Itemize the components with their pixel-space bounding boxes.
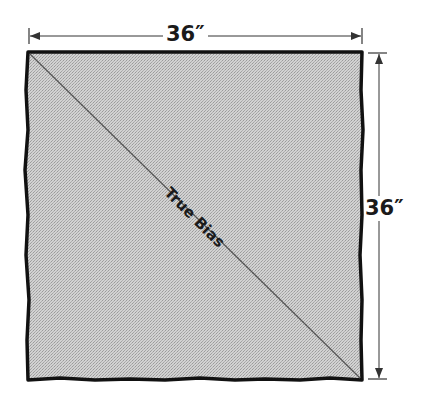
arrow-down-icon xyxy=(375,368,383,378)
arrow-right-icon xyxy=(351,32,361,40)
arrow-up-icon xyxy=(375,54,383,64)
height-label: 36″ xyxy=(365,196,404,221)
width-label: 36″ xyxy=(163,24,208,45)
arrow-left-icon xyxy=(30,32,40,40)
